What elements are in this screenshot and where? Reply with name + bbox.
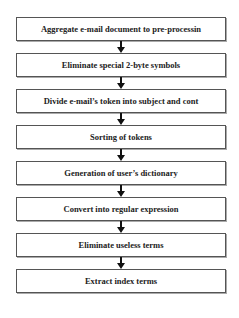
step-convert-regex: Convert into regular expression <box>16 197 226 221</box>
arrow-down-icon <box>16 257 226 269</box>
step-eliminate-symbols: Eliminate special 2-byte symbols <box>16 53 226 77</box>
arrow-down-icon <box>16 149 226 161</box>
arrow-down-icon <box>16 41 226 53</box>
step-label: Sorting of tokens <box>90 132 152 142</box>
step-divide-tokens: Divide e-mail’s token into subject and c… <box>16 89 226 113</box>
step-label: Generation of user’s dictionary <box>64 168 177 178</box>
step-label: Convert into regular expression <box>64 204 179 214</box>
flowchart: Aggregate e-mail document to pre-process… <box>16 17 226 293</box>
step-label: Aggregate e-mail document to pre-process… <box>41 24 201 34</box>
arrow-down-icon <box>16 77 226 89</box>
step-label: Divide e-mail’s token into subject and c… <box>44 96 199 106</box>
step-aggregate-email: Aggregate e-mail document to pre-process… <box>16 17 226 41</box>
step-label: Extract index terms <box>85 276 157 286</box>
arrow-down-icon <box>16 185 226 197</box>
step-label: Eliminate special 2-byte symbols <box>62 60 180 70</box>
step-sorting-tokens: Sorting of tokens <box>16 125 226 149</box>
step-label: Eliminate useless terms <box>79 240 164 250</box>
arrow-down-icon <box>16 113 226 125</box>
step-generate-dictionary: Generation of user’s dictionary <box>16 161 226 185</box>
arrow-down-icon <box>16 221 226 233</box>
step-extract-index: Extract index terms <box>16 269 226 293</box>
step-eliminate-useless: Eliminate useless terms <box>16 233 226 257</box>
